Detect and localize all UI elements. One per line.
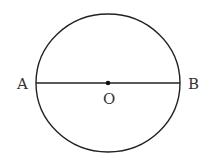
- center-point: [106, 81, 111, 86]
- label-o: O: [103, 90, 115, 108]
- circle-diagram: A B O: [0, 0, 210, 163]
- label-b: B: [188, 75, 199, 93]
- label-a: A: [16, 75, 28, 93]
